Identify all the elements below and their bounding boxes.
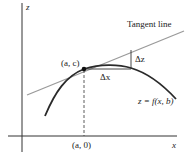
point-a-c — [82, 67, 87, 72]
delta-z-label: Δz — [135, 54, 145, 64]
curve — [45, 65, 176, 116]
z-axis-label: z — [25, 2, 30, 12]
point-label: (a, c) — [61, 58, 79, 68]
foot-label: (a, 0) — [72, 140, 91, 150]
tangent-label: Tangent line — [127, 19, 172, 29]
diagram-canvas: z x (a, c) (a, 0) Tangent line Δx Δz z =… — [0, 0, 189, 160]
x-axis-label: x — [171, 140, 176, 150]
delta-x-label: Δx — [100, 72, 111, 82]
curve-label: z = f(x, b) — [137, 96, 174, 106]
